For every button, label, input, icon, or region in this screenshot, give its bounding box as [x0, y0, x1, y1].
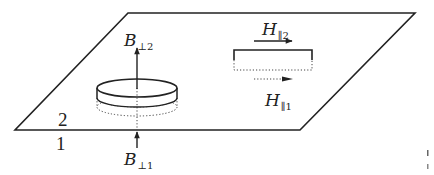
label-h-par-2: H∥2: [262, 21, 289, 38]
edge-mark-top: [427, 150, 429, 156]
label-symbol: B: [124, 149, 137, 169]
h-par-1-arrowhead: [282, 77, 293, 82]
interface-plane: [15, 13, 415, 130]
label-symbol: H: [265, 90, 280, 110]
loop-top-solid: [234, 50, 312, 60]
label-subscript: ∥1: [281, 101, 292, 112]
label-symbol: B: [124, 30, 137, 50]
region-label-1: 1: [56, 134, 66, 153]
label-symbol: H: [262, 19, 277, 39]
label-subscript: ⊥1: [138, 160, 154, 171]
label-b-perp-2: B⊥2: [124, 32, 153, 49]
label-b-perp-1: B⊥1: [124, 151, 153, 168]
region-label-2: 2: [58, 110, 68, 129]
label-h-par-1: H∥1: [265, 92, 292, 109]
loop-bottom-dotted: [234, 60, 312, 70]
label-subscript: ⊥2: [138, 41, 154, 52]
label-subscript: ∥2: [278, 30, 289, 41]
edge-mark-bottom: [427, 164, 429, 169]
amperian-loop: [234, 50, 312, 70]
